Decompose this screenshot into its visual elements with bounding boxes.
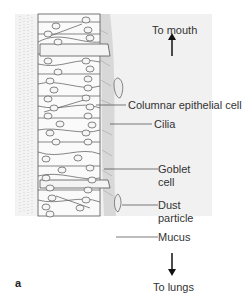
arrow-down-icon [168,253,176,276]
label-mucus: Mucus [158,231,190,243]
label-cilia: Cilia [154,118,175,130]
label-to-mouth: To mouth [152,24,197,36]
panel-letter: a [15,277,21,289]
label-to-lungs: To lungs [153,281,194,293]
label-goblet-cell-line2: cell [158,176,175,188]
label-dust-particle-line1: Dust [158,199,181,211]
label-dust-particle-line2: particle [158,212,193,224]
label-goblet-cell-line1: Goblet [158,163,190,175]
label-columnar-epithelial-cell: Columnar epithelial cell [128,99,242,111]
epithelium-illustration [0,0,247,301]
